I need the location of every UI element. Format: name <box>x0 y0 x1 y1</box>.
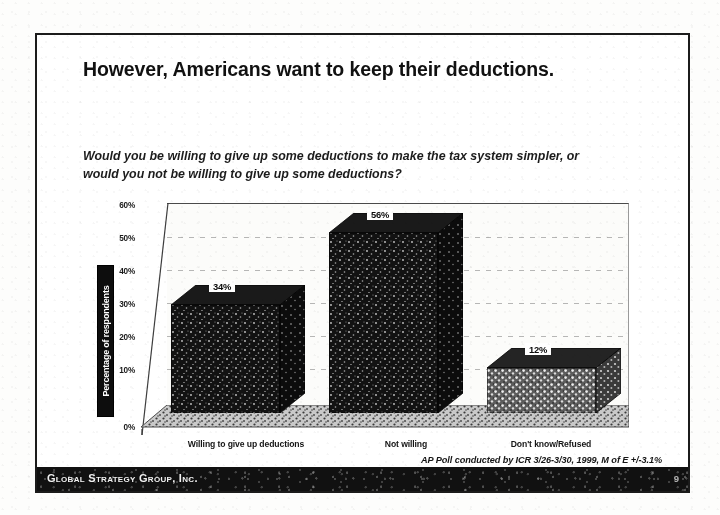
y-axis: 60% 50% 40% 30% 20% 10% 0% <box>93 203 135 403</box>
bar-willing-to-give-up-deductions[interactable]: 34% <box>171 285 305 413</box>
y-tick-30: 30% <box>101 300 135 309</box>
bar-not-willing[interactable]: 56% <box>329 213 463 413</box>
bar-label-dont-know: 12% <box>525 343 551 355</box>
y-tick-10: 10% <box>101 366 135 375</box>
x-label-dont-know: Don't know/Refused <box>471 439 631 449</box>
plot-area: 34% 56% <box>141 203 629 443</box>
presentation-slide: However, Americans want to keep their de… <box>35 33 690 493</box>
bar-chart: Percentage of respondents 60% 50% 40% 30… <box>93 203 673 443</box>
slide-footer-band: Global Strategy Group, Inc. 9 <box>37 467 688 491</box>
company-name: Global Strategy Group, Inc. <box>47 472 198 484</box>
page-number: 9 <box>674 473 679 484</box>
y-tick-60: 60% <box>101 201 135 210</box>
y-tick-20: 20% <box>101 333 135 342</box>
bar-label-not-willing: 56% <box>367 208 393 220</box>
x-label-not-willing: Not willing <box>331 439 481 449</box>
bar-dont-know-refused[interactable]: 12% <box>487 348 621 413</box>
y-tick-40: 40% <box>101 267 135 276</box>
y-tick-0: 0% <box>101 423 135 432</box>
axis-depth-wedge <box>141 203 169 431</box>
x-label-willing: Willing to give up deductions <box>151 439 341 449</box>
scanned-page: However, Americans want to keep their de… <box>0 0 720 515</box>
poll-question-text: Would you be willing to give up some ded… <box>83 148 603 183</box>
bar-label-willing: 34% <box>209 280 235 292</box>
source-note: AP Poll conducted by ICR 3/26-3/30, 1999… <box>421 455 662 465</box>
page-title: However, Americans want to keep their de… <box>83 57 603 82</box>
y-tick-50: 50% <box>101 234 135 243</box>
